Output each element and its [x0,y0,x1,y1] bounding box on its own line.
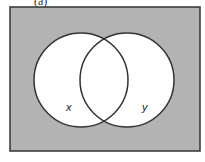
set-x-label: x [65,101,72,113]
venn-diagram: x y [0,0,205,162]
